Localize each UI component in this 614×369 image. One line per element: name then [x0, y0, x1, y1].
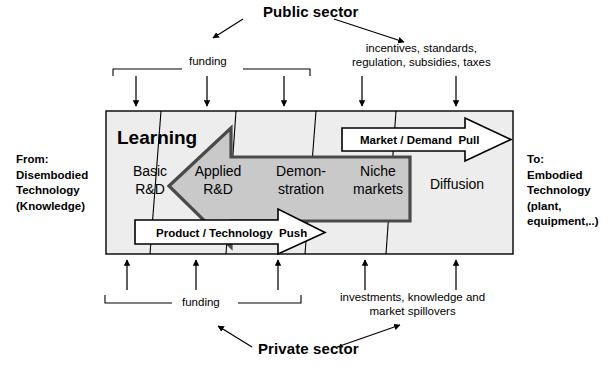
- stage-demonstration: Demon- stration: [262, 163, 340, 198]
- funding-bracket-top: [113, 69, 310, 76]
- diagram-canvas: Public sector incentives, standards, reg…: [0, 0, 614, 369]
- funding-label-bottom: funding: [182, 295, 220, 309]
- public-sector-instruments-note: incentives, standards, regulation, subsi…: [352, 41, 491, 69]
- stage-diffusion: Diffusion: [420, 176, 494, 194]
- stage-niche-markets: Niche markets: [345, 163, 411, 198]
- left-caption: From: Disembodied Technology (Knowledge): [16, 152, 88, 214]
- public-sector-title: Public sector: [263, 3, 359, 21]
- product-technology-push-label: Product / Technology Push: [156, 226, 307, 240]
- stage-basic-rd: Basic R&D: [124, 163, 176, 198]
- public-sector-connectors: [213, 19, 404, 42]
- funding-label-top: funding: [189, 54, 227, 68]
- stage-applied-rd: Applied R&D: [186, 163, 250, 198]
- private-sector-title: Private sector: [258, 340, 359, 358]
- private-sector-spillovers-note: investments, knowledge and market spillo…: [340, 290, 485, 318]
- right-caption: To: Embodied Technology (plant, equipmen…: [527, 152, 599, 230]
- learning-label: Learning: [117, 126, 197, 149]
- bottom-outflow-arrows: [127, 260, 456, 290]
- top-inflow-arrows: [136, 76, 456, 106]
- market-demand-pull-label: Market / Demand Pull: [360, 133, 480, 147]
